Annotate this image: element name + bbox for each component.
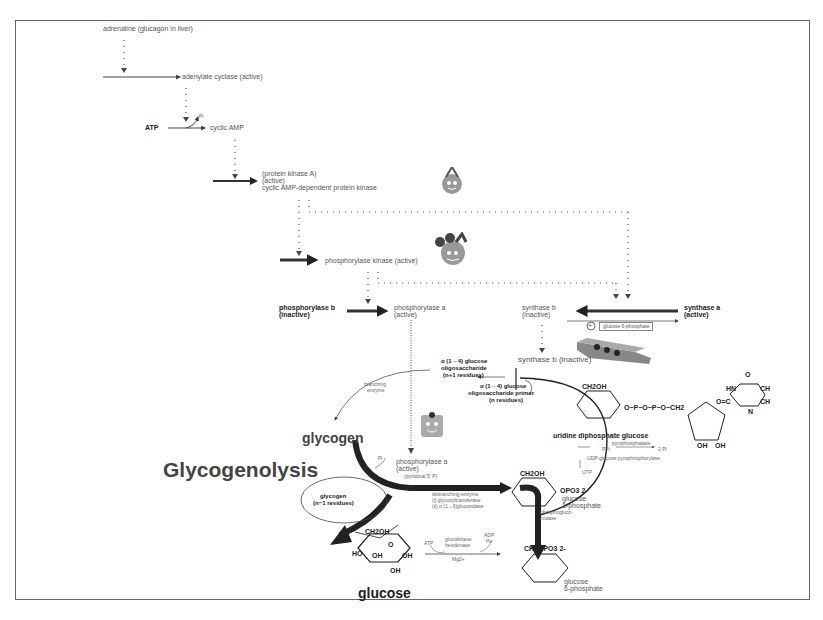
hk-mg: Mg2+ [452, 556, 465, 562]
oligo-n1-line1: α (1→4) glucose [441, 358, 487, 365]
phosphorylase-a-mascot-icon [420, 410, 444, 438]
glucose-ch2oh: CH2OH [365, 528, 390, 536]
phosphorylase-a2-line2: (active) [396, 465, 419, 473]
oligo-n1-line2: oligosaccharide [441, 365, 487, 372]
pi-small-label: Pi [378, 455, 382, 461]
g1p-ch2oh: CH2OH [520, 470, 545, 478]
uracil-o: O [745, 371, 750, 379]
phosphorylase-kinase-label: phosphorylase kinase (active) [325, 257, 418, 265]
phosphorylase-kinase-mascot-icon [432, 232, 470, 266]
oligo-n1-line3: (n+1 residues) [443, 372, 484, 379]
page-title: Glycogenolysis [163, 458, 318, 482]
pyridoxal-cofactor: (pyridoxal 5' P) [404, 473, 437, 479]
ribose-oh2: OH [715, 442, 726, 450]
glucose-ho: HO [352, 550, 363, 558]
pi-label: Pi [199, 113, 203, 119]
pka-label-3: cyclic AMP-dependent protein kinase [262, 184, 377, 192]
uracil-hn: HN [726, 385, 736, 393]
phosphoglucomutase-line2: mutase [540, 515, 556, 521]
oligo-primer-line3: (n residues) [489, 397, 523, 404]
udp-ch2oh: CH2OH [582, 383, 607, 391]
glycogen-label: glycogen [302, 430, 363, 446]
uracil-ch1: CH [760, 385, 770, 393]
adenylate-cyclase-label: adenylate cyclase (active) [182, 73, 263, 81]
activator-plus-icon: + [588, 322, 592, 330]
protein-kinase-a-mascot-icon [440, 167, 464, 195]
phosphorylase-b-label-2: (inactive) [279, 311, 310, 319]
two-pi-label: 2 Pi [658, 446, 667, 452]
uracil-ch2: CH [760, 398, 770, 406]
synthase-b-label-2: (inactive) [522, 311, 550, 319]
cyclic-amp-label: cyclic AMP [210, 124, 244, 132]
utp-label: UTP [582, 469, 592, 475]
ppi-label: PPi [602, 446, 610, 452]
ribose-oh1: OH [697, 442, 708, 450]
atp-label: ATP [145, 124, 158, 132]
g6p-label-2: 6-phosphate [564, 585, 603, 593]
hk-line2: hexokinase [445, 542, 470, 548]
udp-phosphate-chain: O−P−O−P−O−CH2 [624, 404, 684, 412]
g6p-ch2opo3: CH2OPO3 2- [524, 545, 566, 553]
oligo-primer-line2: oligosaccharide primer [468, 390, 534, 397]
debranching-line3: (ii) α (1→6)glucosidase [432, 503, 484, 509]
udp-pyrophosphorylase-label: UDP-glucose pyrophosphorylase [587, 455, 660, 461]
synthase-b-inactive-label: synthase b (inactive) [518, 356, 591, 364]
glucose-oh2: OH [402, 552, 413, 560]
glucose-oh1: OH [372, 552, 383, 560]
glycogen-n1-line1: glycogen [320, 493, 346, 500]
udp-glucose-label: uridine diphosphate glucose [553, 432, 648, 440]
uracil-oc: O=C [716, 398, 731, 406]
glucose-oh3: OH [390, 567, 401, 575]
oligo-primer-line1: α (1→4) glucose [480, 383, 526, 390]
pyrophosphatase-label: pyrophosphatase [612, 440, 650, 446]
synthase-a-label-2: (active) [684, 311, 709, 319]
glucose-6-phosphate-badge: glucose 6-phosphate [599, 322, 653, 331]
hk-h: H+ [486, 538, 493, 544]
glycogen-n1-line2: (n−1 residues) [313, 500, 354, 507]
hormone-label: adrenaline (glucagon in liver) [103, 25, 193, 33]
glucose-o: O [388, 541, 393, 549]
glucose-label: glucose [358, 585, 411, 601]
phosphorylase-a-label-2: (active) [394, 311, 417, 319]
g1p-opo3: OPO3 2- [560, 487, 588, 495]
hk-atp: ATP [424, 540, 433, 546]
uracil-n: N [748, 408, 753, 416]
branching-enzyme-line2: enzyme [367, 387, 385, 393]
